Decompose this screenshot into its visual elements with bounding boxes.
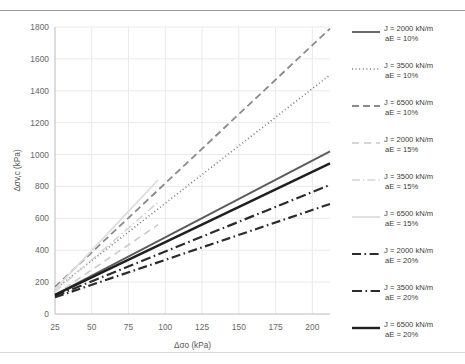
legend-label: J = 3500 kN/maE = 10% <box>384 61 433 82</box>
series-line-4 <box>55 202 158 291</box>
legend-item[interactable]: J = 2000 kN/maE = 15% <box>352 135 464 161</box>
y-axis-label: Δσv,c (kPa) <box>13 149 22 191</box>
x-tick: 75 <box>124 322 134 332</box>
y-tick: 400 <box>35 245 49 255</box>
legend-label: J = 6500 kN/maE = 10% <box>384 98 433 119</box>
x-tick: 25 <box>50 322 60 332</box>
series-line-7 <box>55 185 330 296</box>
legend-label-line1: J = 2000 kN/m <box>384 24 433 34</box>
x-axis-label: Δσo (kPa) <box>174 341 211 350</box>
legend-label-line2: aE = 20% <box>384 256 433 266</box>
series-line-5 <box>55 180 158 289</box>
x-tick: 125 <box>195 322 209 332</box>
x-tick-labels: 255075100125150175200 <box>50 322 319 332</box>
legend-swatch-icon <box>352 136 380 150</box>
legend-item[interactable]: J = 2000 kN/maE = 20% <box>352 246 464 272</box>
legend-item[interactable]: J = 2000 kN/maE = 10% <box>352 24 464 50</box>
legend-item[interactable]: J = 6500 kN/maE = 10% <box>352 98 464 124</box>
legend-swatch-icon <box>352 210 380 224</box>
legend-label-line2: aE = 15% <box>384 182 433 192</box>
y-tick: 800 <box>35 181 49 191</box>
legend-label-line1: J = 6500 kN/m <box>384 98 433 108</box>
legend-label-line1: J = 2000 kN/m <box>384 135 433 145</box>
legend-label-line2: aE = 10% <box>384 71 433 81</box>
x-tick: 100 <box>158 322 172 332</box>
legend-label: J = 2000 kN/maE = 10% <box>384 24 433 45</box>
legend-label-line2: aE = 20% <box>384 293 433 303</box>
legend-label-line2: aE = 20% <box>384 330 433 340</box>
chart-legend: J = 2000 kN/maE = 10%J = 3500 kN/maE = 1… <box>352 24 464 357</box>
x-tick: 50 <box>87 322 97 332</box>
legend-swatch-icon <box>352 321 380 335</box>
y-tick: 1600 <box>30 54 49 64</box>
legend-label: J = 6500 kN/maE = 20% <box>384 320 433 341</box>
y-tick: 1800 <box>30 22 49 32</box>
legend-label-line2: aE = 10% <box>384 108 433 118</box>
y-tick: 1400 <box>30 86 49 96</box>
legend-item[interactable]: J = 6500 kN/maE = 15% <box>352 209 464 235</box>
legend-label: J = 3500 kN/maE = 20% <box>384 283 433 304</box>
top-divider <box>0 10 465 11</box>
legend-item[interactable]: J = 3500 kN/maE = 15% <box>352 172 464 198</box>
gridlines <box>55 27 330 314</box>
legend-label: J = 3500 kN/maE = 15% <box>384 172 433 193</box>
legend-label-line1: J = 6500 kN/m <box>384 320 433 330</box>
y-tick: 0 <box>44 309 49 319</box>
y-tick: 600 <box>35 213 49 223</box>
legend-label-line1: J = 3500 kN/m <box>384 61 433 71</box>
x-tick: 175 <box>269 322 283 332</box>
series-lines <box>55 29 330 298</box>
legend-swatch-icon <box>352 99 380 113</box>
legend-swatch-icon <box>352 284 380 298</box>
legend-label: J = 6500 kN/maE = 15% <box>384 209 433 230</box>
axis-lines <box>55 27 330 314</box>
x-tick: 150 <box>232 322 246 332</box>
legend-label-line2: aE = 10% <box>384 34 433 44</box>
legend-swatch-icon <box>352 62 380 76</box>
legend-swatch-icon <box>352 25 380 39</box>
legend-label: J = 2000 kN/maE = 20% <box>384 246 433 267</box>
legend-item[interactable]: J = 3500 kN/maE = 10% <box>352 61 464 87</box>
figure-container: 020040060080010001200140016001800 255075… <box>0 0 465 364</box>
x-tick: 200 <box>305 322 319 332</box>
line-chart: 020040060080010001200140016001800 255075… <box>0 12 352 352</box>
y-tick: 1000 <box>30 150 49 160</box>
legend-label-line1: J = 3500 kN/m <box>384 283 433 293</box>
legend-label-line2: aE = 15% <box>384 219 433 229</box>
legend-item[interactable]: J = 6500 kN/maE = 20% <box>352 320 464 346</box>
legend-label-line2: aE = 15% <box>384 145 433 155</box>
legend-label-line1: J = 3500 kN/m <box>384 172 433 182</box>
legend-label-line1: J = 2000 kN/m <box>384 246 433 256</box>
y-tick: 1200 <box>30 118 49 128</box>
legend-item[interactable]: J = 3500 kN/maE = 20% <box>352 283 464 309</box>
legend-label: J = 2000 kN/maE = 15% <box>384 135 433 156</box>
y-tick: 200 <box>35 277 49 287</box>
legend-swatch-icon <box>352 173 380 187</box>
legend-swatch-icon <box>352 247 380 261</box>
y-tick-labels: 020040060080010001200140016001800 <box>30 22 49 319</box>
series-line-2 <box>55 29 330 287</box>
series-line-0 <box>55 151 330 295</box>
legend-label-line1: J = 6500 kN/m <box>384 209 433 219</box>
